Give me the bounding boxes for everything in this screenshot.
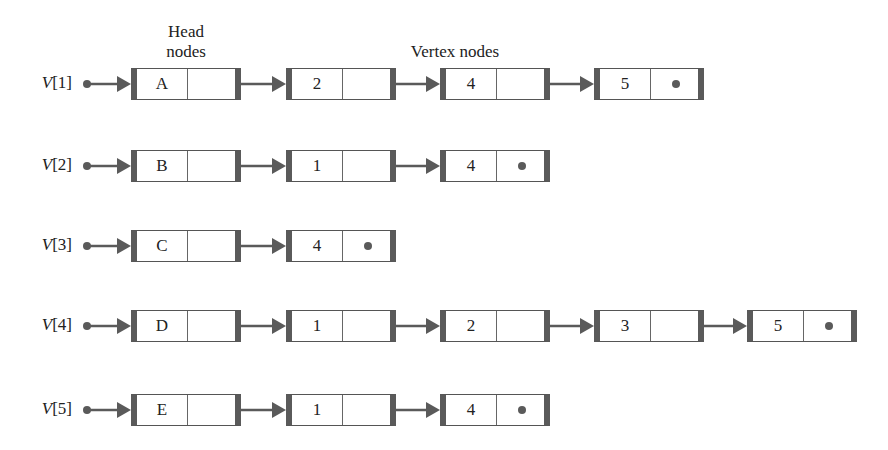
row-label-var: V (42, 399, 52, 418)
null-pointer-icon (364, 242, 372, 250)
node-pointer-field (497, 69, 544, 99)
head-node: D (131, 310, 241, 342)
node-value: 1 (292, 151, 343, 181)
vertex-node: 1 (286, 394, 396, 426)
row-label-var: V (42, 155, 52, 174)
node-value: 5 (600, 69, 651, 99)
vertex-node: 5 (747, 310, 857, 342)
vertex-node: 4 (440, 150, 550, 182)
vertex-node: 5 (594, 68, 704, 100)
vertex-node: 2 (440, 310, 550, 342)
row-label-index: [2] (52, 155, 72, 174)
row-label-var: V (42, 315, 52, 334)
row-label: V[5] (28, 399, 72, 419)
null-pointer-icon (825, 322, 833, 330)
row-label-index: [4] (52, 315, 72, 334)
row-label: V[2] (28, 155, 72, 175)
node-value: 4 (446, 151, 497, 181)
row-label-var: V (42, 73, 52, 92)
row-label-index: [1] (52, 73, 72, 92)
node-pointer-field (343, 311, 390, 341)
node-pointer-field (343, 69, 390, 99)
node-value: 4 (292, 231, 343, 261)
node-value: 1 (292, 395, 343, 425)
node-value: 4 (446, 395, 497, 425)
row-label: V[1] (28, 73, 72, 93)
node-pointer-field (188, 231, 235, 261)
node-pointer-field (188, 311, 235, 341)
node-pointer-field (188, 151, 235, 181)
node-value: 5 (753, 311, 804, 341)
node-pointer-field (651, 311, 698, 341)
null-pointer-icon (518, 162, 526, 170)
row-label: V[4] (28, 315, 72, 335)
vertex-node: 1 (286, 150, 396, 182)
node-pointer-field (188, 69, 235, 99)
vertex-node: 4 (286, 230, 396, 262)
row-label-index: [3] (52, 235, 72, 254)
null-pointer-icon (672, 80, 680, 88)
node-value: B (137, 151, 188, 181)
head-node: B (131, 150, 241, 182)
node-value: E (137, 395, 188, 425)
node-pointer-field (343, 151, 390, 181)
head-node: A (131, 68, 241, 100)
vertex-node: 4 (440, 68, 550, 100)
vertex-node: 4 (440, 394, 550, 426)
vertex-node: 1 (286, 310, 396, 342)
node-value: 1 (292, 311, 343, 341)
row-label-var: V (42, 235, 52, 254)
node-value: 2 (446, 311, 497, 341)
null-pointer-icon (518, 406, 526, 414)
node-value: 4 (446, 69, 497, 99)
node-pointer-field (497, 311, 544, 341)
node-pointer-field (343, 395, 390, 425)
row-label-index: [5] (52, 399, 72, 418)
head-node: E (131, 394, 241, 426)
node-pointer-field (188, 395, 235, 425)
node-value: C (137, 231, 188, 261)
vertex-node: 2 (286, 68, 396, 100)
node-value: 2 (292, 69, 343, 99)
vertex-node: 3 (594, 310, 704, 342)
node-value: D (137, 311, 188, 341)
row-label: V[3] (28, 235, 72, 255)
node-value: 3 (600, 311, 651, 341)
node-value: A (137, 69, 188, 99)
head-node: C (131, 230, 241, 262)
